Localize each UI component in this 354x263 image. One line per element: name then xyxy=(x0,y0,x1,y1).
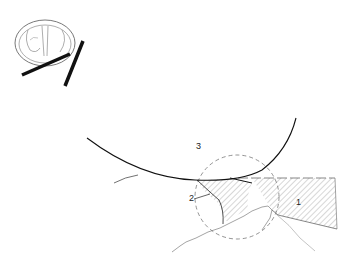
label-2: 2 xyxy=(189,193,194,203)
region-3-curve xyxy=(87,118,296,180)
lower-contour xyxy=(172,206,272,252)
label-3: 3 xyxy=(196,141,201,151)
label-1: 1 xyxy=(296,197,301,207)
cut-plane-bar-1 xyxy=(22,54,70,75)
region-2-hatched xyxy=(197,178,252,222)
inset-sketch xyxy=(15,20,83,86)
region-1-hatched xyxy=(252,178,337,229)
anatomical-diagram: 1 2 3 xyxy=(0,0,354,263)
